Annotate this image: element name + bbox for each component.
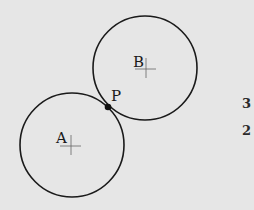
label-b: B [133, 53, 144, 71]
tangent-circles-diagram: A B P 3 2 [0, 0, 254, 210]
label-p: P [111, 87, 121, 105]
label-a: A [55, 129, 67, 147]
side-number-3: 3 [242, 96, 251, 111]
side-number-2: 2 [242, 123, 251, 138]
